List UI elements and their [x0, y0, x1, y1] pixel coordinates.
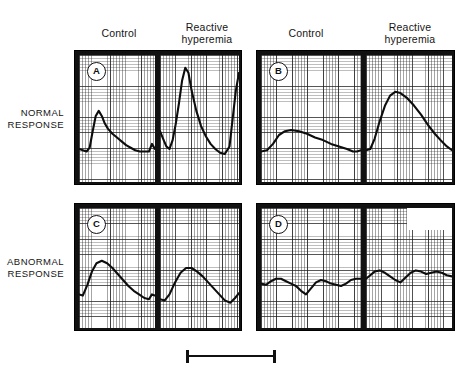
row-label-normal-response: NORMAL RESPONSE — [0, 107, 64, 130]
panel-b-control-strip: B — [261, 55, 361, 182]
reactive-hyperemia-figure: Control Reactive hyperemia Control React… — [0, 0, 475, 373]
panel-a-hyperemia-trace — [160, 55, 239, 182]
panel-tag-a: A — [87, 62, 106, 81]
panel-a-control-strip: A — [79, 55, 155, 182]
panel-b: B — [256, 50, 455, 185]
row-label-line1: ABNORMAL — [0, 256, 64, 268]
row-label-line1: NORMAL — [0, 107, 64, 119]
scale-bar-cap-right — [273, 350, 276, 363]
panel-c-control-strip: C — [79, 208, 155, 328]
panel-c-hyperemia-strip — [160, 208, 239, 328]
column-header-label: Control — [101, 27, 136, 39]
column-header-control-left: Control — [76, 28, 162, 40]
column-header-control-right: Control — [262, 28, 350, 40]
column-header-reactive-hyperemia-left: Reactive hyperemia — [162, 22, 252, 45]
panel-tag-c: C — [87, 215, 106, 234]
column-header-reactive-hyperemia-right: Reactive hyperemia — [362, 22, 458, 45]
panel-c: C — [74, 203, 242, 331]
panel-b-hyperemia-strip — [366, 55, 452, 182]
row-label-line2: RESPONSE — [0, 268, 64, 280]
column-header-label: Control — [288, 27, 323, 39]
panel-a-hyperemia-strip — [160, 55, 239, 182]
panel-d-control-strip: D — [261, 208, 361, 328]
panel-a: A — [74, 50, 242, 185]
column-header-label: Reactive hyperemia — [385, 21, 436, 45]
panel-tag-b: B — [269, 62, 288, 81]
panel-tag-d: D — [269, 215, 288, 234]
panel-d: D — [256, 203, 455, 331]
panel-c-hyperemia-trace — [160, 208, 239, 328]
panel-b-hyperemia-trace — [366, 55, 452, 182]
scale-bar-rule — [186, 355, 276, 357]
scale-bar — [186, 350, 276, 363]
row-label-line2: RESPONSE — [0, 119, 64, 131]
column-header-label: Reactive hyperemia — [182, 21, 233, 45]
panel-d-hyperemia-trace — [366, 208, 452, 328]
panel-d-hyperemia-strip — [366, 208, 452, 328]
row-label-abnormal-response: ABNORMAL RESPONSE — [0, 256, 64, 279]
